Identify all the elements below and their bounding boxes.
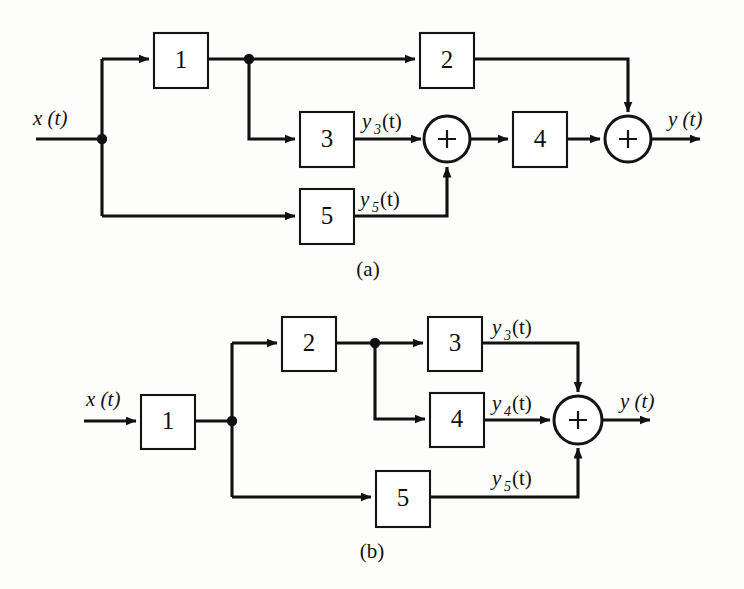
wire-a-block2-to-sum2 bbox=[474, 59, 628, 112]
block-diagram-canvas: 1 2 3 5 bbox=[0, 0, 744, 589]
figure-page: 1 2 3 5 bbox=[0, 0, 744, 589]
block-b-5-label: 5 bbox=[397, 484, 410, 511]
block-a-2-label: 2 bbox=[441, 46, 454, 73]
svg-text:5: 5 bbox=[504, 479, 511, 494]
junction-a-input bbox=[97, 134, 107, 144]
label-b-y3: y 3 (t) bbox=[490, 315, 532, 343]
block-a-4-label: 4 bbox=[534, 125, 547, 152]
label-b-y4: y 4 (t) bbox=[490, 391, 532, 419]
svg-text:5: 5 bbox=[372, 200, 379, 215]
block-b-4-label: 4 bbox=[451, 405, 464, 432]
svg-text:y: y bbox=[360, 109, 372, 133]
label-a-input: x (t) bbox=[32, 106, 67, 130]
svg-text:y: y bbox=[490, 391, 502, 415]
wire-a-to-block3 bbox=[249, 59, 295, 139]
svg-text:(t): (t) bbox=[512, 466, 532, 490]
svg-text:3: 3 bbox=[503, 328, 511, 343]
block-b-1-label: 1 bbox=[162, 407, 175, 434]
svg-text:3: 3 bbox=[373, 122, 381, 137]
label-a-y5: y 5 (t) bbox=[358, 187, 400, 215]
label-b-input: x (t) bbox=[85, 387, 120, 411]
wire-b-to-block4 bbox=[375, 343, 425, 419]
label-b-y5: y 5 (t) bbox=[490, 466, 532, 494]
block-a-3-label: 3 bbox=[321, 125, 334, 152]
label-a-y3: y 3 (t) bbox=[360, 109, 402, 137]
panel-b: 1 2 3 4 bbox=[84, 315, 654, 563]
svg-text:4: 4 bbox=[504, 404, 511, 419]
wire-b-block3-to-sum bbox=[482, 343, 578, 392]
block-b-3-label: 3 bbox=[449, 329, 462, 356]
block-b-2-label: 2 bbox=[303, 329, 316, 356]
caption-b: (b) bbox=[360, 539, 385, 563]
svg-text:(t): (t) bbox=[382, 109, 402, 133]
svg-text:(t): (t) bbox=[512, 315, 532, 339]
panel-a: 1 2 3 5 bbox=[32, 33, 702, 281]
svg-text:(t): (t) bbox=[512, 391, 532, 415]
label-a-output: y (t) bbox=[666, 107, 702, 131]
svg-text:y: y bbox=[490, 315, 502, 339]
block-a-1-label: 1 bbox=[175, 46, 188, 73]
block-a-5-label: 5 bbox=[321, 202, 334, 229]
label-b-output: y (t) bbox=[618, 389, 654, 413]
svg-text:y: y bbox=[358, 187, 370, 211]
caption-a: (a) bbox=[356, 257, 379, 281]
svg-text:y: y bbox=[490, 466, 502, 490]
svg-text:(t): (t) bbox=[380, 187, 400, 211]
